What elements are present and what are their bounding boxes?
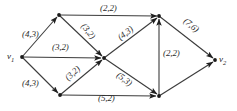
edge-label-a-d: (2,2) bbox=[100, 3, 117, 13]
edge-c-d bbox=[104, 18, 157, 58]
edge-label-b-e: (5,2) bbox=[98, 93, 115, 103]
node-label-v2-sub: 2 bbox=[223, 59, 226, 66]
node-b bbox=[58, 93, 62, 97]
node-c bbox=[102, 56, 106, 60]
edge-v1-c bbox=[22, 57, 101, 58]
node-v1 bbox=[20, 55, 24, 59]
node-e bbox=[157, 94, 161, 98]
node-label-v2: v2 bbox=[219, 54, 226, 66]
edge-c-e bbox=[104, 58, 157, 94]
node-label-v1-sub: 1 bbox=[11, 56, 14, 63]
network-flow-diagram: v1 v2 (4,3) (4,3) (3,2) (2,2) (3,2) (3,2… bbox=[0, 0, 237, 111]
edges-group bbox=[22, 15, 213, 96]
edge-label-v1-a: (4,3) bbox=[22, 29, 39, 39]
node-label-v1: v1 bbox=[7, 51, 14, 63]
edge-label-v1-b: (4,3) bbox=[22, 78, 39, 88]
graph-canvas bbox=[0, 0, 237, 111]
node-v2 bbox=[213, 58, 217, 62]
edge-e-v2 bbox=[159, 62, 213, 96]
node-a bbox=[57, 13, 61, 17]
edge-label-v1-c: (3,2) bbox=[52, 42, 69, 52]
edge-a-d bbox=[59, 15, 157, 16]
edge-label-e-d: (2,2) bbox=[163, 48, 180, 58]
node-d bbox=[157, 14, 161, 18]
